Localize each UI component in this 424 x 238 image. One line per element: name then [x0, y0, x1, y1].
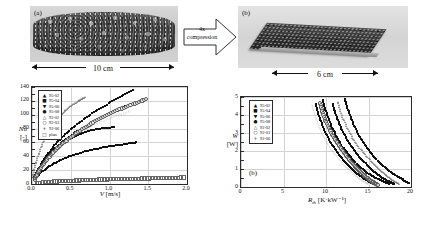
foam-plate-photo: (b) [238, 6, 408, 68]
legend-label: plate [48, 132, 58, 138]
y-minor-tick [32, 87, 35, 88]
y-axis-unit: [-] [5, 133, 27, 141]
y-axis-unit: [W] [216, 140, 238, 148]
gridline-vertical [411, 97, 412, 187]
x-tick-label: 20 [404, 188, 416, 194]
data-point [84, 96, 86, 98]
y-minor-tick [32, 142, 35, 143]
data-point [35, 161, 37, 163]
x-tick-label: 5 [277, 188, 289, 194]
y-tick-label: 1 [224, 165, 238, 171]
x-axis-symbol: V [100, 190, 104, 198]
scalebar-right-arrow-icon [373, 70, 378, 76]
y-minor-tick [241, 142, 244, 143]
scalebar-left-arrow-icon [272, 70, 277, 76]
legend-item: +92-06 [252, 136, 270, 142]
data-point [135, 141, 137, 143]
data-point: + [367, 183, 370, 186]
power-chart-tag: (b) [249, 169, 257, 177]
y-minor-tick [241, 106, 244, 107]
y-minor-tick [32, 136, 35, 137]
y-tick-label: 4 [224, 111, 238, 117]
x-tick-label: 2.0 [180, 185, 192, 191]
y-tick-label: 140 [15, 83, 29, 89]
y-tick-label: 120 [15, 96, 29, 102]
y-tick-label: 100 [15, 110, 29, 116]
gridline-horizontal [241, 97, 411, 98]
gridline-horizontal [32, 170, 187, 171]
data-point [182, 175, 186, 179]
nusselt-legend: ▲95-02■95-04▼95-06●95-08△92-02○92-03+92-… [38, 90, 62, 140]
x-axis-subscript: th [312, 200, 316, 205]
y-tick-label: 20 [15, 166, 29, 172]
data-point [38, 152, 40, 154]
y-minor-tick [241, 133, 244, 134]
panel-b-scalebar-label: 6 cm [308, 70, 342, 79]
gridline-horizontal [32, 156, 187, 157]
power-x-axis-title: Rth [K·kW⁻¹] [262, 196, 392, 205]
legend-item: □plate [41, 132, 59, 138]
legend-label: 92-06 [259, 136, 270, 142]
foam-cylinder-photo: (a) [30, 6, 178, 62]
nusselt-x-axis-title: V [m/s] [60, 190, 160, 198]
y-minor-tick [32, 156, 35, 157]
data-point [34, 164, 36, 166]
y-minor-tick [32, 115, 35, 116]
data-point [35, 162, 37, 164]
x-tick-label: 10 [319, 188, 331, 194]
y-minor-tick [241, 97, 244, 98]
y-minor-tick [32, 129, 35, 130]
y-minor-tick [32, 94, 35, 95]
y-minor-tick [32, 108, 35, 109]
data-point [398, 183, 400, 185]
data-point [34, 166, 36, 168]
data-point [33, 168, 35, 170]
legend-marker-icon: + [252, 136, 259, 142]
nusselt-plot-area: ++++++++++++++++++++++++++++++++++++++++… [31, 86, 188, 185]
scalebar-right-arrow-icon [169, 64, 174, 70]
data-point [132, 89, 134, 91]
panel-a-tag: (a) [34, 9, 42, 17]
y-tick-label: 0 [15, 180, 29, 186]
y-axis-symbol: W [216, 132, 238, 140]
scalebar-left-arrow-icon [32, 64, 37, 70]
y-minor-tick [32, 149, 35, 150]
gridline-horizontal [241, 151, 411, 152]
panel-a-scalebar: 10 cm [32, 63, 174, 75]
y-minor-tick [32, 122, 35, 123]
power-y-axis-title: W [W] [216, 132, 238, 148]
y-axis-symbol: Nu [5, 125, 27, 133]
x-tick-label: 0 [234, 188, 246, 194]
data-point [36, 157, 38, 159]
figure-container: (a) 10 cm 4x compression (b) [0, 0, 424, 238]
gridline-horizontal [32, 87, 187, 88]
data-point: + [129, 111, 132, 114]
compression-word: compression [182, 33, 222, 41]
x-axis-unit: [m/s] [106, 190, 121, 198]
panel-a-scalebar-label: 10 cm [86, 64, 120, 73]
legend-marker-icon: □ [41, 132, 48, 138]
data-point [408, 182, 410, 184]
panel-b-tag: (b) [242, 9, 250, 17]
compression-arrow-text: 4x compression [182, 25, 222, 41]
x-axis-unit: [K·kW⁻¹] [318, 196, 346, 204]
data-point [113, 126, 115, 128]
gridline-vertical [284, 97, 285, 187]
y-minor-tick [241, 160, 244, 161]
compression-arrow: 4x compression [182, 16, 238, 58]
x-tick-label: 15 [362, 188, 374, 194]
data-point [36, 159, 38, 161]
power-legend: ▲95-02■95-04▼95-06●95-08△92-02○92-03+92-… [249, 100, 273, 144]
y-tick-label: 5 [224, 93, 238, 99]
y-minor-tick [241, 169, 244, 170]
y-minor-tick [32, 101, 35, 102]
gridline-vertical [187, 87, 188, 184]
nusselt-y-axis-title: Nu [-] [5, 125, 27, 141]
foam-cylinder-texture [33, 12, 175, 56]
y-tick-label: 0 [224, 183, 238, 189]
x-tick-label: 0.0 [25, 185, 37, 191]
data-point [38, 153, 40, 155]
y-minor-tick [241, 124, 244, 125]
panel-b-scalebar: 6 cm [272, 69, 378, 81]
y-minor-tick [241, 178, 244, 179]
